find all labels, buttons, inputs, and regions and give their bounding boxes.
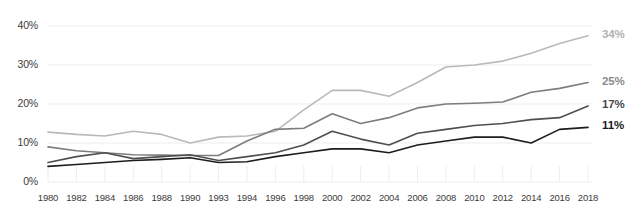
series-end-label-series-2: 25% — [602, 75, 625, 87]
line-chart: 0%10%20%30%40% 1980198219841986198819901… — [0, 0, 640, 210]
series-line-series-2 — [48, 83, 588, 156]
series-end-label-series-1: 34% — [602, 28, 625, 40]
series-line-series-1 — [48, 36, 588, 143]
series-end-label-series-3: 17% — [602, 98, 625, 110]
series-lines-group — [48, 36, 588, 167]
y-tick-label: 40% — [4, 19, 38, 31]
chart-plot-area — [0, 0, 640, 210]
y-tick-label: 30% — [4, 58, 38, 70]
y-tick-label: 10% — [4, 136, 38, 148]
x-tick-label: 2018 — [568, 192, 608, 203]
series-end-label-series-4: 11% — [602, 119, 624, 131]
vertical-gridlines — [48, 166, 588, 182]
y-tick-label: 20% — [4, 97, 38, 109]
y-tick-label: 0% — [4, 175, 38, 187]
series-line-series-4 — [48, 127, 588, 166]
